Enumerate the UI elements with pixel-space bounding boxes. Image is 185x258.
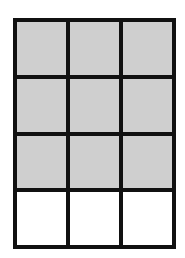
unshaded-cell-r4-c1 (17, 192, 66, 245)
shaded-cell-r1-c2 (70, 22, 119, 75)
unshaded-cell-r4-c2 (70, 192, 119, 245)
shaded-cell-r2-c1 (17, 79, 66, 132)
shaded-cell-r3-c1 (17, 136, 66, 189)
grid-diagram (13, 18, 176, 249)
shaded-cell-r2-c2 (70, 79, 119, 132)
unshaded-cell-r4-c3 (123, 192, 172, 245)
shaded-cell-r1-c3 (123, 22, 172, 75)
shaded-cell-r1-c1 (17, 22, 66, 75)
shaded-cell-r3-c2 (70, 136, 119, 189)
shaded-cell-r2-c3 (123, 79, 172, 132)
shaded-cell-r3-c3 (123, 136, 172, 189)
